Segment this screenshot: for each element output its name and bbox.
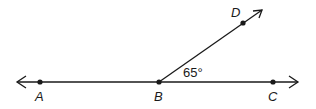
point-d xyxy=(240,20,245,25)
angle-label: 65° xyxy=(183,65,203,80)
point-c xyxy=(270,79,275,84)
label-b: B xyxy=(154,89,163,104)
ray-bd xyxy=(159,10,262,82)
diagram-svg: A B C D 65° xyxy=(0,0,316,109)
label-a: A xyxy=(34,89,44,104)
label-d: D xyxy=(231,5,240,20)
angle-diagram: A B C D 65° xyxy=(0,0,316,109)
point-a xyxy=(37,79,42,84)
point-b xyxy=(156,79,161,84)
label-c: C xyxy=(268,89,278,104)
